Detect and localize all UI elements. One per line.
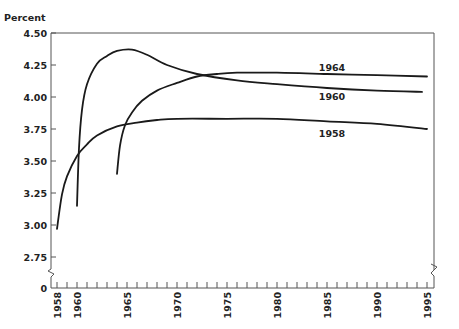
axes — [48, 33, 437, 288]
line-chart: Percent 4.504.254.003.753.503.253.002.75… — [0, 0, 459, 329]
series-line-1964 — [117, 73, 427, 174]
y-tick-label: 3.00 — [24, 220, 48, 231]
y-tick-label-zero: 0 — [40, 283, 47, 294]
x-tick-label: 1990 — [372, 292, 383, 319]
y-tick-label: 2.75 — [24, 252, 47, 263]
x-tick-label: 1970 — [172, 292, 183, 319]
series-label-1958: 1958 — [319, 128, 346, 139]
series-label-1960: 1960 — [319, 91, 346, 102]
series-label-1964: 1964 — [319, 62, 346, 73]
series-line-1958 — [57, 119, 427, 229]
axis-frame — [48, 33, 437, 288]
x-tick-label: 1980 — [272, 292, 283, 319]
x-tick-label: 1958 — [52, 292, 63, 319]
y-tick-label: 3.25 — [24, 188, 47, 199]
y-axis-label: Percent — [4, 12, 46, 23]
x-tick-label: 1960 — [72, 292, 83, 319]
x-axis-ticks: 195819601965197019751980198519901995 — [52, 282, 433, 318]
x-tick-label: 1965 — [122, 292, 133, 318]
x-tick-label: 1985 — [322, 292, 333, 318]
y-tick-label: 4.00 — [24, 92, 48, 103]
y-tick-label: 3.50 — [24, 156, 48, 167]
x-tick-label: 1975 — [222, 292, 233, 318]
x-tick-label: 1995 — [422, 292, 433, 318]
y-tick-label: 4.50 — [24, 28, 48, 39]
y-tick-label: 4.25 — [24, 60, 47, 71]
y-tick-label: 3.75 — [24, 124, 47, 135]
series-lines — [57, 49, 427, 228]
